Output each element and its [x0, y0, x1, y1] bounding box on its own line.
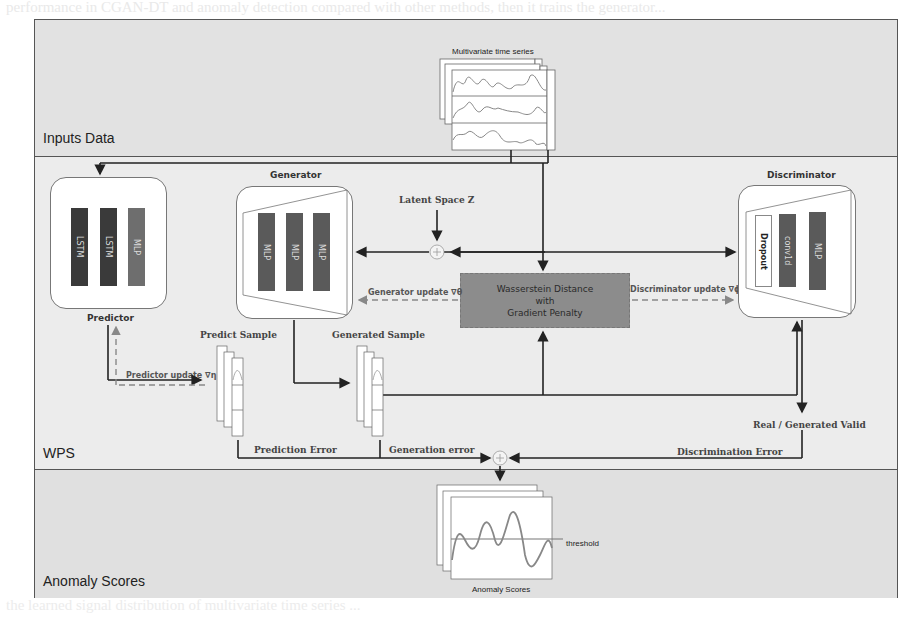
band-label-inputs: Inputs Data	[43, 130, 115, 146]
generator-title: Generator	[270, 170, 321, 180]
discriminator-layer-dropout: Dropout	[755, 215, 772, 287]
generated-sample-label: Generated Sample	[332, 330, 425, 340]
real-generated-valid-label: Real / Generated Valid	[753, 420, 866, 430]
generator-layer-mlp-2: MLP	[286, 213, 303, 291]
band-label-anomaly: Anomaly Scores	[43, 573, 145, 589]
predictor-layer-mlp: MLP	[128, 208, 145, 286]
discriminator-title: Discriminator	[767, 170, 836, 180]
series-title: Multivariate time series	[452, 47, 534, 56]
latent-space-label: Latent Space Z	[399, 195, 474, 205]
prediction-error-label: Prediction Error	[254, 445, 337, 455]
discriminator-layer-conv1d: conv1d	[779, 214, 796, 287]
generation-error-label: Generation error	[389, 445, 474, 455]
discriminator-update-label: Discriminator update ∇ϕ	[630, 285, 740, 294]
anomaly-scores-caption: Anomaly Scores	[472, 585, 530, 594]
discriminator-layer-mlp: MLP	[809, 212, 826, 290]
predictor-update-label: Predictor update ∇η	[126, 371, 216, 380]
wasserstein-line-1: Wasserstein Distance	[497, 283, 594, 295]
background-page-text-bottom: the learned signal distribution of multi…	[0, 598, 914, 629]
wasserstein-line-3: Gradient Penalty	[507, 307, 582, 319]
predict-sample-label: Predict Sample	[200, 330, 277, 340]
generator-layer-mlp-1: MLP	[258, 213, 275, 291]
band-anomaly-scores: Anomaly Scores	[35, 470, 897, 598]
wasserstein-distance-box: Wasserstein Distance with Gradient Penal…	[460, 273, 630, 328]
predictor-layer-lstm-2: LSTM	[100, 208, 117, 286]
discrimination-error-label: Discrimination Error	[677, 447, 783, 457]
predictor-title: Predictor	[87, 313, 134, 323]
generator-update-label: Generator update ∇θ	[368, 288, 462, 297]
threshold-label: threshold	[566, 539, 599, 548]
band-label-wps: WPS	[43, 445, 75, 461]
predictor-layer-lstm-1: LSTM	[71, 208, 88, 286]
generator-layer-mlp-3: MLP	[313, 213, 330, 291]
wasserstein-line-2: with	[535, 295, 554, 307]
band-inputs-data: Inputs Data	[35, 20, 897, 157]
